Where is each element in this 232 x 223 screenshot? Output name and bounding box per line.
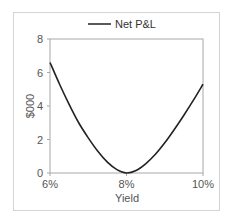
legend-label: Net P&L bbox=[115, 18, 156, 30]
x-tick-label: 10% bbox=[192, 178, 214, 190]
y-axis: 02468 bbox=[37, 33, 50, 179]
x-tick-label: 8% bbox=[119, 178, 135, 190]
net-pnl-line bbox=[50, 62, 203, 173]
x-axis: 6%8%10% bbox=[42, 173, 214, 190]
y-tick-label: 8 bbox=[37, 33, 43, 45]
plot-area bbox=[50, 39, 203, 173]
y-axis-label: $000 bbox=[24, 94, 36, 118]
chart-svg: Net P&L 02468 6%8%10% $000 Yield bbox=[0, 0, 232, 223]
y-tick-label: 4 bbox=[37, 100, 43, 112]
legend: Net P&L bbox=[88, 18, 156, 30]
x-axis-label: Yield bbox=[115, 192, 139, 204]
y-tick-label: 6 bbox=[37, 67, 43, 79]
y-tick-label: 2 bbox=[37, 134, 43, 146]
x-tick-label: 6% bbox=[42, 178, 58, 190]
